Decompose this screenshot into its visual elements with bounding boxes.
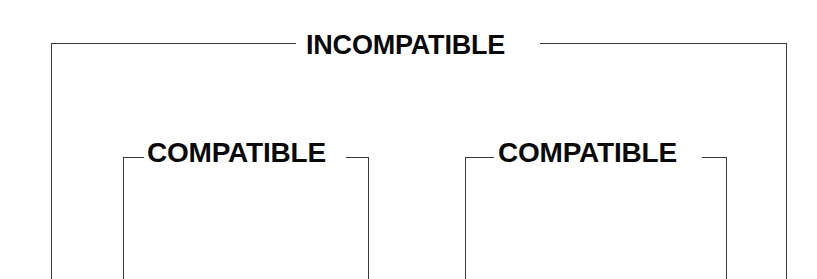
outer-box-right-line <box>786 43 787 279</box>
inner-box-left-title: COMPATIBLE <box>147 139 326 167</box>
outer-box-top-left-line <box>51 43 296 44</box>
inner-box-right-top-right-line <box>702 157 727 158</box>
inner-box-right-top-left-line <box>465 157 494 158</box>
inner-box-right-title: COMPATIBLE <box>498 139 677 167</box>
inner-box-left-top-left-line <box>123 157 144 158</box>
inner-box-right-right-line <box>726 157 727 279</box>
outer-box-title: INCOMPATIBLE <box>306 32 505 59</box>
outer-box-top-right-line <box>540 43 787 44</box>
inner-box-left-left-line <box>123 157 124 279</box>
outer-box-left-line <box>51 43 52 279</box>
inner-box-left-right-line <box>368 157 369 279</box>
inner-box-left-top-right-line <box>346 157 369 158</box>
inner-box-right-left-line <box>465 157 466 279</box>
